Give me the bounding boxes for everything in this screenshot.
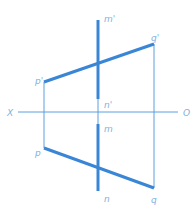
label-m-prime: m' [104,14,115,24]
label-x: X [6,108,14,118]
projection-diagram: X O m' n' p' q' m n p q [0,0,192,214]
label-o: O [183,108,190,118]
label-p-prime: p' [34,76,43,86]
label-q-prime: q' [151,33,159,43]
label-m: m [104,124,113,134]
label-n-prime: n' [104,100,112,110]
label-p: p [34,148,41,158]
label-q: q [151,195,157,205]
label-n: n [104,194,110,204]
